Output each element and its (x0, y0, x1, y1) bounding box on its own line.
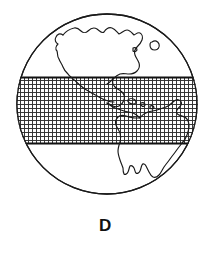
figure-label: D (0, 216, 211, 236)
figure-container: D (0, 0, 211, 257)
tropical-zone-band (8, 78, 204, 144)
tropical-band-group (8, 78, 204, 144)
